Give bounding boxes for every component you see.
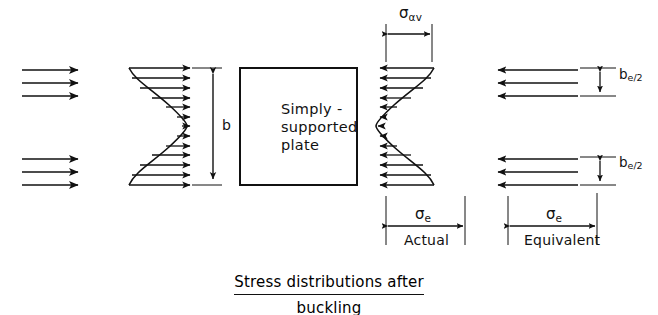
be-symbol: b: [619, 154, 628, 170]
be-bottom-label: be/2: [619, 154, 643, 171]
plate-label-line3: plate: [281, 136, 358, 154]
diagram-vector: [0, 0, 658, 315]
be-subscript: e/2: [628, 160, 643, 171]
be-symbol: b: [619, 66, 628, 82]
sigma-glyph: σ: [546, 205, 556, 223]
be-top-label: be/2: [619, 66, 643, 83]
equivalent-arrows-top: [498, 70, 578, 96]
caption-line2: buckling: [297, 298, 362, 315]
prebuckling-arrows-top: [22, 70, 78, 96]
caption-line1: Stress distributions after: [234, 272, 424, 295]
dimension-b-label: b: [222, 117, 231, 133]
sigma-av-label: σαv: [399, 4, 422, 23]
be-subscript: e/2: [628, 72, 643, 83]
sigma-av-dimension: [386, 24, 432, 62]
dimension-b-line: [192, 68, 222, 185]
prebuckling-arrows-bottom: [22, 159, 78, 185]
sigma-e-actual-label: σe: [415, 205, 431, 224]
figure-canvas: Simply - supported plate b σαv σe σe Act…: [0, 0, 658, 315]
postbuckling-left-profile: [129, 68, 187, 185]
plate-label-line2: supported: [281, 118, 358, 136]
sigma-glyph: σ: [415, 205, 425, 223]
sigma-e-subscript: e: [425, 212, 432, 224]
sigma-glyph: σ: [399, 4, 409, 22]
be-top-dimension: [580, 68, 616, 96]
equivalent-label: Equivalent: [524, 232, 600, 248]
actual-profile: [376, 68, 434, 185]
actual-arrows: [378, 68, 434, 185]
sigma-e-equivalent-label: σe: [546, 205, 562, 224]
sigma-e-subscript: e: [556, 212, 563, 224]
postbuckling-left-arrows: [129, 68, 190, 185]
sigma-av-subscript: αv: [409, 11, 423, 23]
be-bottom-dimension: [580, 157, 616, 185]
equivalent-arrows-bottom: [498, 159, 578, 185]
figure-caption: Stress distributions after buckling: [0, 272, 658, 315]
plate-label: Simply - supported plate: [281, 100, 358, 154]
actual-label: Actual: [404, 232, 449, 248]
plate-label-line1: Simply -: [281, 100, 358, 118]
